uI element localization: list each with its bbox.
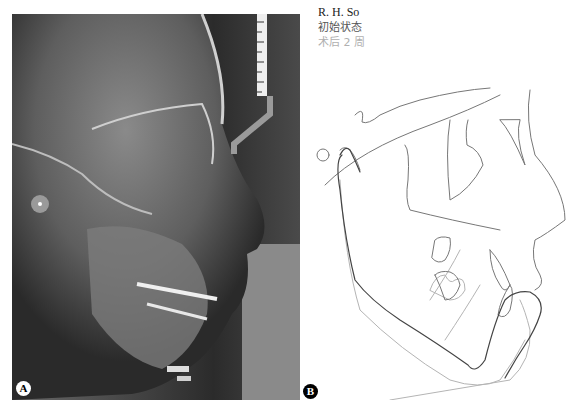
panel-b-label: B [303,384,318,399]
legend: R. H. So 初始状态 术后 2 周 [318,5,365,50]
legend-initial: 初始状态 [318,20,365,35]
xray-illustration [12,14,300,400]
panel-a-label: A [16,381,31,396]
cephalogram-image [12,14,300,400]
legend-postop: 术后 2 周 [318,35,365,50]
patient-name: R. H. So [318,5,365,20]
cephalometric-tracing [300,60,588,400]
